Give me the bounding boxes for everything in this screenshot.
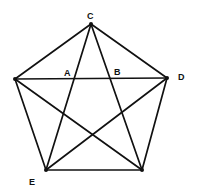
vertex-C (89, 22, 93, 26)
label-D: D (178, 72, 185, 82)
label-B: B (114, 67, 121, 77)
vertex-E (44, 168, 48, 172)
edge-C-R (91, 24, 142, 170)
label-C: C (87, 11, 94, 21)
edge-C-E (46, 24, 91, 170)
edge-C-D (91, 24, 167, 78)
edge-R-D (142, 78, 167, 170)
label-E: E (29, 177, 35, 187)
edge-L-E (15, 79, 46, 170)
vertex-D (165, 76, 169, 80)
edge-L-R (15, 79, 142, 170)
edge-C-L (15, 24, 91, 79)
edges-group (15, 24, 167, 170)
pentagon-diagram: C D E A B (0, 0, 200, 193)
vertex-L (13, 77, 17, 81)
vertex-R (140, 168, 144, 172)
edge-L-D (15, 78, 167, 79)
label-A: A (64, 68, 71, 78)
vertices-group (13, 22, 169, 172)
edge-E-D (46, 78, 167, 170)
